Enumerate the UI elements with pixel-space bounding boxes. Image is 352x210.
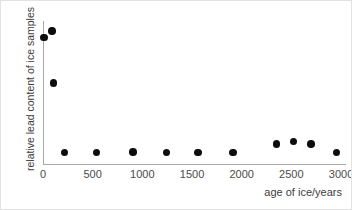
x-tick-label: 2500 [279,168,303,181]
data-point [48,27,56,35]
x-tick-label: 3000 [329,168,352,181]
plot-area [43,21,346,164]
scatter-chart-figure: 050010001500200025003000 age of ice/year… [0,0,352,210]
data-point [40,34,48,42]
x-tick-label: 1500 [180,168,204,181]
x-tick-label: 1000 [130,168,154,181]
data-point [50,79,58,87]
x-axis-title: age of ice/years [1,186,342,199]
x-tick-label: 2000 [229,168,253,181]
x-tick-label: 0 [40,168,46,181]
y-axis-title: relative lead content of ice samples [23,8,37,171]
x-tick-label: 500 [83,168,101,181]
data-point [129,148,137,156]
